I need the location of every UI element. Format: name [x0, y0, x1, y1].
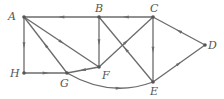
- node-label-b: B: [95, 3, 103, 14]
- node-label-d: D: [208, 40, 217, 51]
- node-b: [97, 15, 101, 19]
- node-f: [97, 65, 101, 69]
- arrowhead-icon: [58, 16, 64, 19]
- node-e: [151, 80, 155, 84]
- node-label-a: A: [8, 11, 16, 22]
- node-h: [22, 71, 26, 75]
- node-c: [151, 15, 155, 19]
- arrowhead-icon: [43, 72, 49, 75]
- node-label-e: E: [150, 86, 158, 97]
- edge-g-e: [67, 73, 153, 88]
- node-g: [65, 71, 69, 75]
- arrowhead-icon: [116, 87, 122, 90]
- node-label-h: H: [10, 68, 20, 79]
- node-d: [203, 43, 207, 47]
- node-label-c: C: [150, 3, 158, 14]
- node-label-f: F: [102, 70, 110, 81]
- arrowhead-icon: [176, 29, 182, 33]
- node-a: [22, 15, 26, 19]
- node-label-g: G: [60, 78, 69, 89]
- arrowhead-icon: [80, 68, 86, 71]
- arrowhead-icon: [98, 39, 101, 45]
- directed-graph: [0, 0, 224, 99]
- arrowhead-icon: [123, 16, 129, 19]
- arrowhead-icon: [152, 47, 155, 53]
- arrowhead-icon: [23, 42, 26, 48]
